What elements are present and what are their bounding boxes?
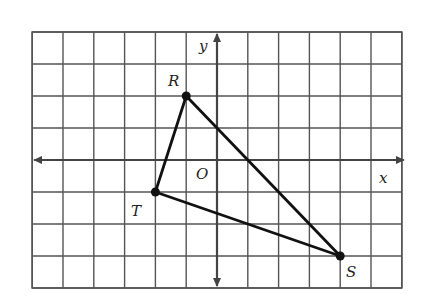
y-axis-label: y (198, 37, 208, 55)
vertex-point-R (182, 92, 191, 101)
vertex-point-S (336, 252, 345, 261)
edge-RS (186, 96, 340, 256)
origin-label: O (196, 165, 208, 183)
coordinate-plane-diagram: y x O R T S (0, 0, 422, 308)
vertex-point-T (151, 188, 160, 197)
x-axis-label: x (379, 169, 388, 187)
vertex-label-R: R (167, 72, 179, 90)
vertex-label-S: S (346, 263, 356, 281)
edge-TR (155, 96, 186, 192)
vertex-label-T: T (131, 202, 142, 220)
axes (34, 34, 404, 286)
